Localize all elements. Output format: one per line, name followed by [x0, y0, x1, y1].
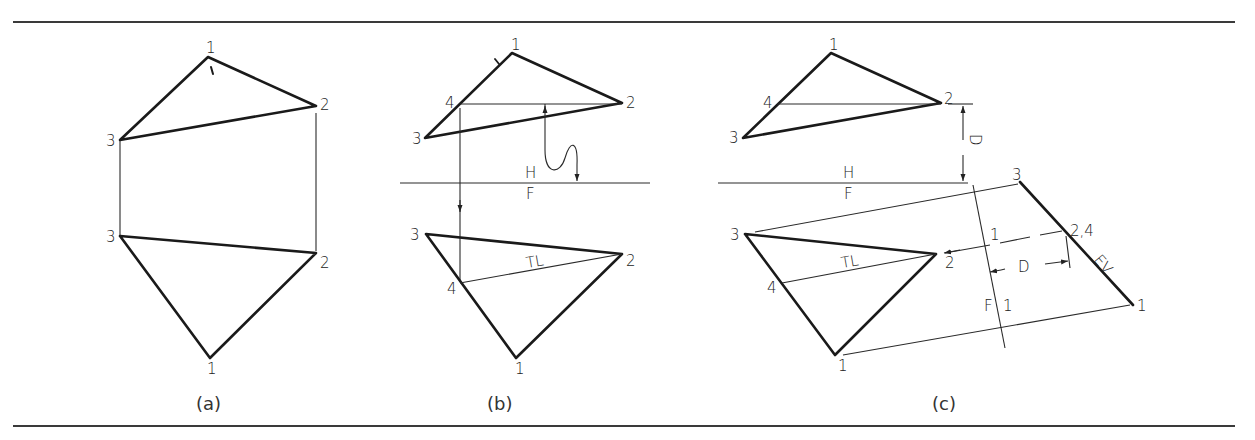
top-view-triangle [743, 53, 941, 138]
d-label-vertical: D [966, 134, 984, 146]
tl-label: TL [840, 251, 860, 272]
label-3-front: 3 [410, 226, 420, 244]
fold-label-h: H [525, 164, 536, 182]
label-3-top: 3 [729, 129, 739, 147]
label-1-front: 1 [838, 357, 848, 375]
label-4-front: 4 [767, 279, 777, 297]
label-2-front: 2 [626, 252, 636, 270]
tl-label: TL [525, 251, 545, 272]
edge-view-line [1020, 182, 1133, 305]
label-1-top: 1 [829, 36, 839, 54]
label-4-top: 4 [445, 94, 455, 112]
label-1-front: 1 [207, 360, 217, 378]
panel-c: D 1 2 3 4 H F 3 2 4 1 TL 1 F 1 3 [718, 36, 1147, 414]
label-2-top: 2 [320, 96, 330, 114]
caption-a: (a) [196, 393, 221, 414]
aux-label-24: 2,4 [1070, 222, 1094, 240]
label-3-front: 3 [106, 228, 116, 246]
aux-d-label: D [1018, 258, 1030, 276]
caption-b: (b) [487, 393, 512, 414]
top-view-triangle [120, 57, 316, 140]
caption-c: (c) [932, 393, 956, 414]
front-view-triangle [120, 236, 316, 358]
top-view-triangle [425, 53, 622, 138]
label-4-front: 4 [447, 280, 457, 298]
panel-b: 1 2 3 4 H F 3 2 4 1 TL (b) [400, 36, 650, 414]
aux-fold-label-f: F [984, 297, 993, 315]
fold-line-f1 [973, 185, 1005, 348]
label-3-top: 3 [412, 130, 422, 148]
fold-label-f: F [844, 185, 853, 203]
label-1-top: 1 [206, 39, 216, 57]
label-4-top: 4 [763, 94, 773, 112]
label-1-front: 1 [515, 360, 525, 378]
fold-label-h: H [843, 164, 854, 182]
label-3-front: 3 [730, 226, 740, 244]
fold-label-f: F [526, 185, 535, 203]
aux-fold-label-1: 1 [1003, 297, 1013, 315]
ev-label: EV [1090, 251, 1116, 278]
projector-2-aux [945, 231, 1062, 253]
label-1-top: 1 [511, 36, 521, 54]
aux-label-3: 3 [1012, 166, 1022, 184]
panel-a: 1 2 3 3 2 1 (a) [106, 39, 330, 414]
descriptive-geometry-figure: 1 2 3 3 2 1 (a) 1 2 3 4 H F 3 2 4 1 TL (… [0, 0, 1255, 440]
aux-fold-label-top: 1 [990, 226, 1000, 244]
aux-label-1: 1 [1137, 297, 1147, 315]
label-2-front: 2 [320, 254, 330, 272]
label-2-top: 2 [626, 94, 636, 112]
extension-line-24 [1066, 236, 1070, 268]
label-2-front: 2 [945, 254, 955, 272]
label-2-top: 2 [944, 90, 954, 108]
projector-3-aux [755, 184, 1018, 232]
label-3-top: 3 [106, 132, 116, 150]
